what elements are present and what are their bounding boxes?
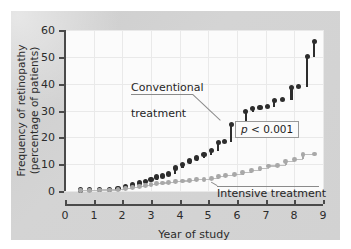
- annotation-conventional-line2: treatment: [131, 107, 186, 120]
- data-point: [258, 166, 263, 171]
- data-point: [232, 172, 237, 177]
- y-axis-label-line1: Frequency of retinopathy: [15, 44, 27, 176]
- data-point: [180, 162, 185, 167]
- data-point: [143, 183, 148, 188]
- annotation-conventional-treatment: Conventional treatment: [131, 68, 204, 120]
- data-point: [137, 184, 142, 189]
- y-axis-label: Frequency of retinopathy (percentage of …: [15, 30, 40, 191]
- y-axis-tick: [59, 191, 64, 193]
- data-point: [275, 163, 280, 168]
- x-axis-tick-label: 5: [198, 210, 218, 221]
- x-axis-tick: [266, 200, 268, 204]
- figure-container: 01020304050600123456789 Frequency of ret…: [0, 0, 351, 249]
- p-value-badge: p < 0.001: [235, 121, 299, 138]
- data-point: [130, 185, 135, 190]
- x-axis-tick-label: 6: [227, 210, 247, 221]
- data-point: [187, 158, 192, 163]
- data-point: [222, 139, 227, 144]
- data-point: [292, 157, 297, 162]
- y-axis-tick: [59, 137, 64, 139]
- data-point: [87, 188, 92, 193]
- data-point: [202, 177, 207, 182]
- annotation-intensive-treatment: Intensive treatment: [217, 187, 326, 200]
- p-value-text: < 0.001: [248, 123, 294, 135]
- data-point: [216, 174, 221, 179]
- x-axis-line: [65, 204, 323, 206]
- data-point: [223, 173, 228, 178]
- data-point: [272, 98, 277, 103]
- y-axis-line: [64, 30, 66, 191]
- x-axis-tick-label: 3: [141, 210, 161, 221]
- data-point: [312, 152, 317, 157]
- gridline-vertical: [323, 30, 324, 191]
- data-point: [229, 122, 234, 127]
- series-riser: [306, 57, 308, 87]
- data-point: [265, 104, 270, 109]
- x-axis-tick: [122, 200, 124, 204]
- data-point: [289, 85, 294, 90]
- y-axis-tick: [59, 84, 64, 86]
- data-point: [78, 188, 83, 193]
- data-point: [187, 178, 192, 183]
- x-axis-tick: [151, 200, 153, 204]
- y-axis-tick: [59, 164, 64, 166]
- x-axis-tick-label: 1: [84, 210, 104, 221]
- data-point: [312, 39, 317, 44]
- x-axis-tick: [208, 200, 210, 204]
- data-point: [166, 171, 171, 176]
- x-axis-tick-label: 9: [313, 210, 333, 221]
- annotation-conventional-line1: Conventional: [131, 81, 204, 94]
- data-point: [257, 105, 262, 110]
- gridline-horizontal: [65, 30, 323, 31]
- y-axis-label-line2: (percentage of patients): [27, 46, 39, 174]
- data-point: [166, 180, 171, 185]
- x-axis-tick: [237, 200, 239, 204]
- y-axis-tick: [59, 57, 64, 59]
- data-point: [173, 179, 178, 184]
- series-riser: [230, 124, 232, 141]
- x-axis-tick-label: 4: [170, 210, 190, 221]
- gridline-vertical: [294, 30, 295, 191]
- p-symbol: p: [241, 123, 248, 135]
- x-axis-tick: [94, 200, 96, 204]
- data-point: [301, 152, 306, 157]
- gridline-vertical: [237, 30, 238, 191]
- gridline-horizontal: [65, 57, 323, 58]
- data-point: [97, 188, 102, 193]
- data-point: [160, 181, 165, 186]
- x-axis-tick: [294, 200, 296, 204]
- x-axis-tick-label: 0: [55, 210, 75, 221]
- data-point: [201, 152, 206, 157]
- data-point: [173, 165, 178, 170]
- gridline-vertical: [122, 30, 123, 191]
- x-axis-label: Year of study: [65, 228, 323, 241]
- data-point: [249, 168, 254, 173]
- data-point: [154, 174, 159, 179]
- gridline-vertical: [94, 30, 95, 191]
- data-point: [154, 181, 159, 186]
- data-point: [123, 186, 128, 191]
- data-point: [209, 176, 214, 181]
- data-point: [160, 173, 165, 178]
- x-axis-tick: [323, 200, 325, 204]
- chart-panel: 01020304050600123456789 Frequency of ret…: [11, 11, 340, 240]
- data-point: [283, 159, 288, 164]
- x-axis-tick: [65, 200, 67, 204]
- x-axis-tick: [180, 200, 182, 204]
- x-axis-tick-label: 2: [112, 210, 132, 221]
- x-axis-tick-label: 7: [256, 210, 276, 221]
- data-point: [107, 188, 112, 193]
- y-axis-tick: [59, 30, 64, 32]
- data-point: [216, 140, 221, 145]
- x-axis-tick-label: 8: [284, 210, 304, 221]
- y-axis-tick: [59, 111, 64, 113]
